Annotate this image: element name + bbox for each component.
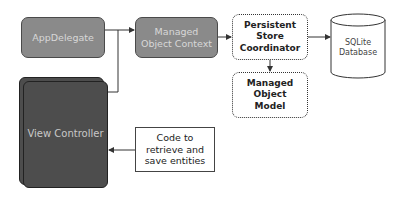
view-controller-label: View Controller xyxy=(27,128,103,141)
code-note-label: Code to retrieve and save entities xyxy=(139,132,211,168)
app-delegate-label: AppDelegate xyxy=(32,32,94,44)
managed-object-context-node: Managed Object Context xyxy=(135,17,218,58)
persistent-store-coordinator-node: Persistent Store Coordinator xyxy=(232,14,308,60)
persistent-store-coordinator-label: Persistent Store Coordinator xyxy=(236,20,304,54)
view-controller-node: View Controller xyxy=(23,81,108,188)
managed-object-model-label: Managed Object Model xyxy=(237,78,303,112)
app-delegate-node: AppDelegate xyxy=(21,17,105,58)
managed-object-model-node: Managed Object Model xyxy=(232,72,308,118)
managed-object-context-label: Managed Object Context xyxy=(139,26,214,50)
code-note-node: Code to retrieve and save entities xyxy=(135,127,215,172)
sqlite-database-label: SQLite Database xyxy=(331,38,385,59)
